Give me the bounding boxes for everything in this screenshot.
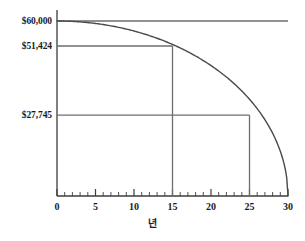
x-tick-label-10: 10	[119, 201, 149, 212]
y-tick-label-51424: $51,424	[2, 41, 52, 51]
x-tick-label-20: 20	[196, 201, 226, 212]
y-tick-label-60000: $60,000	[2, 16, 52, 26]
x-tick-label-0: 0	[42, 201, 72, 212]
chart-figure: $60,000 $51,424 $27,745 0 5 10 15 20 25 …	[0, 0, 305, 241]
x-tick-label-5: 5	[81, 201, 111, 212]
x-tick-label-30: 30	[273, 201, 303, 212]
reference-lines	[57, 21, 288, 196]
x-axis-title: 년	[0, 218, 305, 229]
y-tick-label-27745: $27,745	[2, 110, 52, 120]
x-tick-label-15: 15	[158, 201, 188, 212]
x-tick-label-25: 25	[235, 201, 265, 212]
